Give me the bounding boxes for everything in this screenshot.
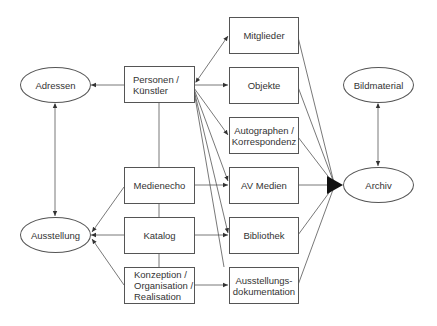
edge-personen-mitglieder [196, 36, 228, 82]
node-label: Katalog [143, 230, 175, 241]
connector-layer [0, 0, 437, 326]
edge-medienecho-ausstellung [92, 187, 124, 232]
node-ausstellungsdoku: Ausstellungs- dokumentation [229, 267, 299, 304]
node-autographen: Autographen / Korrespondenz [229, 117, 299, 154]
node-label: Autographen / Korrespondenz [232, 125, 296, 147]
node-konzeption: Konzeption / Organisation / Realisation [124, 267, 195, 304]
node-label: Ausstellung [31, 230, 80, 241]
edge-objekte-archiv [298, 87, 334, 183]
node-medienecho: Medienecho [124, 167, 195, 204]
archiv-arrowhead-icon [327, 176, 343, 194]
node-label: Objekte [248, 80, 281, 91]
node-label: Bildmaterial [354, 80, 404, 91]
node-label: Ausstellungs- dokumentation [233, 275, 295, 297]
node-label: Mitglieder [243, 30, 284, 41]
node-personen: Personen / Künstler [124, 66, 195, 103]
node-adressen: Adressen [20, 67, 91, 103]
edge-ausstellungsdoku-archiv [298, 187, 334, 285]
node-ausstellung: Ausstellung [20, 217, 91, 253]
node-objekte: Objekte [229, 67, 299, 104]
node-katalog: Katalog [124, 217, 195, 254]
edge-bibliothek-archiv [298, 186, 334, 235]
node-label: Bibliothek [243, 230, 284, 241]
node-label: AV Medien [241, 180, 287, 191]
node-label: Adressen [35, 80, 75, 91]
node-avmedien: AV Medien [229, 167, 299, 204]
node-archiv: Archiv [343, 167, 414, 203]
edge-konzeption-ausstellung [92, 239, 124, 285]
node-label: Konzeption / Organisation / Realisation [134, 269, 193, 302]
edge-personen-avmedien [194, 89, 228, 181]
node-bibliothek: Bibliothek [229, 217, 299, 254]
node-label: Archiv [365, 180, 391, 191]
node-bildmaterial: Bildmaterial [343, 67, 414, 103]
node-label: Medienecho [134, 180, 186, 191]
node-mitglieder: Mitglieder [229, 17, 299, 54]
edge-personen-ausstellungsdoku [194, 91, 224, 267]
node-label: Personen / Künstler [133, 74, 179, 96]
